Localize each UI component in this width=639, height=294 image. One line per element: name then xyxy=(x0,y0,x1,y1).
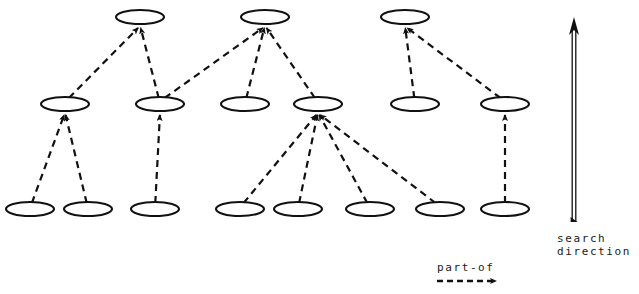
concept-node-b5[interactable] xyxy=(274,202,322,216)
part-of-legend-label: part-of xyxy=(437,261,495,274)
part-of-edge xyxy=(407,28,500,98)
search-arrow-head xyxy=(569,17,579,35)
concept-node-m4[interactable] xyxy=(294,97,342,111)
concept-node-b1[interactable] xyxy=(6,202,54,216)
concept-node-t3[interactable] xyxy=(381,10,429,24)
part-of-edges xyxy=(32,28,505,203)
part-of-edge xyxy=(155,115,160,203)
concept-node-m3[interactable] xyxy=(221,97,269,111)
part-of-edge xyxy=(32,115,64,203)
concept-node-b4[interactable] xyxy=(216,202,264,216)
concept-node-t2[interactable] xyxy=(241,10,289,24)
concept-node-t1[interactable] xyxy=(116,10,164,24)
concept-node-m2[interactable] xyxy=(136,97,184,111)
part-of-edge xyxy=(69,28,138,98)
part-of-edge xyxy=(299,115,317,203)
concept-node-b7[interactable] xyxy=(416,202,464,216)
concept-node-b6[interactable] xyxy=(346,202,394,216)
part-of-edge xyxy=(405,28,414,98)
concept-node-m5[interactable] xyxy=(391,97,439,111)
part-of-edge xyxy=(165,28,263,98)
concept-nodes xyxy=(6,10,529,216)
search-direction-arrow-icon xyxy=(569,17,579,222)
part-of-edge xyxy=(319,115,367,203)
part-of-edge xyxy=(320,115,435,203)
concept-node-b8[interactable] xyxy=(481,202,529,216)
diagram-canvas xyxy=(0,0,639,294)
part-of-edge xyxy=(244,115,317,203)
part-of-edge xyxy=(267,28,315,98)
part-of-edge xyxy=(141,28,159,98)
concept-node-m1[interactable] xyxy=(41,97,89,111)
concept-node-b3[interactable] xyxy=(131,202,179,216)
part-of-edge xyxy=(246,28,264,98)
concept-node-m6[interactable] xyxy=(481,97,529,111)
part-of-edge xyxy=(66,115,87,203)
search-direction-legend-label: search direction xyxy=(557,232,631,258)
concept-node-b2[interactable] xyxy=(64,202,112,216)
